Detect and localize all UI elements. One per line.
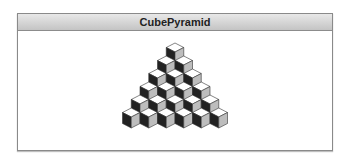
window-title: CubePyramid	[18, 14, 332, 31]
pyramid-canvas	[18, 31, 332, 150]
cube-pyramid-window: CubePyramid	[17, 13, 333, 151]
cube-pyramid-drawing	[18, 31, 332, 150]
